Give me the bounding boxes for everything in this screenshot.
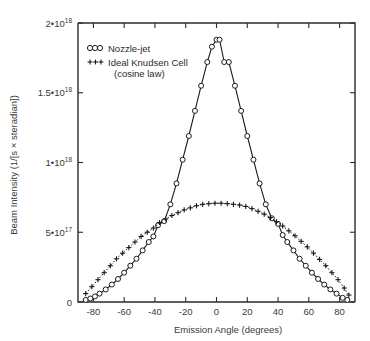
data-point-circle	[192, 108, 197, 113]
data-point-circle	[303, 263, 308, 268]
data-point-circle	[217, 37, 222, 42]
data-point-circle	[134, 256, 139, 261]
data-point-circle	[205, 60, 210, 65]
legend-label-secondary: (cosine law)	[114, 68, 165, 79]
data-point-circle	[316, 276, 321, 281]
data-point-circle	[92, 294, 97, 299]
x-tick-label-0: 0	[214, 306, 219, 317]
data-point-circle	[285, 240, 290, 245]
x-tick-label--40: -40	[148, 306, 162, 317]
legend-label: Nozzle-jet	[108, 43, 151, 54]
x-tick-label--20: -20	[179, 306, 193, 317]
data-point-circle	[226, 60, 231, 65]
x-tick-label-20: 20	[242, 306, 253, 317]
data-point-circle	[251, 157, 256, 162]
data-point-circle	[174, 181, 179, 186]
x-tick-label--60: -60	[117, 306, 131, 317]
data-point-circle	[291, 248, 296, 253]
data-point-circle	[245, 133, 250, 138]
data-point-circle	[199, 83, 204, 88]
data-point-circle	[309, 270, 314, 275]
data-point-circle	[328, 287, 333, 292]
data-point-circle	[257, 181, 262, 186]
data-point-circle	[128, 263, 133, 268]
beam-intensity-chart: -80-60-40-20020406080 05•10171•10181.5•1…	[0, 0, 370, 341]
data-point-circle	[232, 83, 237, 88]
data-point-circle	[297, 256, 302, 261]
x-tick-label-40: 40	[273, 306, 284, 317]
legend-circle-icon	[87, 45, 102, 50]
data-point-circle	[103, 287, 108, 292]
data-point-circle	[322, 282, 327, 287]
data-point-circle	[151, 234, 156, 239]
chart-background	[0, 0, 370, 341]
y-tick-label-0: 0	[67, 297, 72, 308]
data-point-circle	[140, 248, 145, 253]
data-point-circle	[345, 297, 350, 302]
data-point-circle	[168, 202, 173, 207]
data-point-circle	[116, 276, 121, 281]
x-tick-label--80: -80	[87, 306, 101, 317]
data-point-circle	[209, 44, 214, 49]
data-point-circle	[239, 108, 244, 113]
y-axis-title: Beam Intensity (1/[s × steradian])	[8, 95, 19, 235]
data-point-circle	[97, 291, 102, 296]
x-axis-tick-labels: -80-60-40-20020406080	[87, 306, 345, 317]
data-point-circle	[180, 157, 185, 162]
data-point-circle	[280, 233, 285, 238]
data-point-circle	[109, 282, 114, 287]
legend-label: Ideal Knudsen Cell	[108, 57, 188, 68]
x-axis-title: Emission Angle (degrees)	[174, 324, 282, 335]
data-point-circle	[334, 291, 339, 296]
legend-plus-icon	[88, 60, 104, 65]
data-point-circle	[186, 133, 191, 138]
x-tick-label-60: 60	[304, 306, 315, 317]
data-point-circle	[122, 270, 127, 275]
data-point-circle	[146, 240, 151, 245]
x-tick-label-80: 80	[334, 306, 345, 317]
data-point-circle	[263, 202, 268, 207]
chart-canvas: -80-60-40-20020406080 05•10171•10181.5•1…	[0, 0, 370, 341]
